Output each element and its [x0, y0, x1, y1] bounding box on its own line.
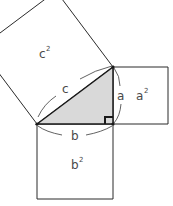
vertex-dot: [111, 122, 114, 125]
right-triangle: [37, 67, 113, 124]
arc-a-lower: [114, 104, 121, 123]
label-a2-exp: 2: [144, 87, 148, 95]
label-a: a: [117, 89, 124, 103]
arc-b-right: [86, 126, 112, 135]
vertex-dot: [35, 122, 38, 125]
arc-a-upper: [114, 68, 120, 86]
label-b2-base: b: [71, 158, 79, 172]
label-c: c: [62, 82, 69, 96]
label-c2-exp: 2: [46, 45, 50, 53]
arc-b-left: [38, 126, 62, 135]
label-c2-base: c: [39, 47, 46, 61]
pythagorean-diagram: c a b c 2 a 2 b 2: [0, 0, 173, 206]
label-b2-exp: 2: [79, 156, 83, 164]
label-a2-base: a: [136, 89, 143, 103]
label-b: b: [71, 129, 79, 143]
vertex-dot: [111, 65, 114, 68]
